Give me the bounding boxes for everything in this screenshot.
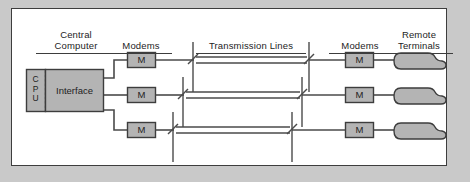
label-central-computer-text: Central Computer [55, 29, 98, 51]
modem-right-3-label: M [346, 124, 373, 135]
network-diagram-figure: Central Computer Modems Transmission Lin… [0, 0, 470, 182]
modem-right-2-label: M [346, 89, 373, 100]
label-remote-terminals: Remote Terminals [385, 18, 453, 65]
remote-terminal-3-shape [394, 123, 446, 139]
label-remote-terminals-rule [385, 53, 453, 54]
break-symbol-right-2 [297, 77, 307, 127]
modem-left-1-label: M [128, 54, 155, 65]
label-transmission-lines-text: Transmission Lines [209, 40, 293, 51]
terminal-lead-lines [374, 60, 395, 130]
cpu-label: C P U [27, 75, 44, 104]
transmission-line-pairs [176, 57, 307, 133]
modem-left-2-label: M [128, 89, 155, 100]
interface-to-modem-connectors [104, 60, 127, 130]
label-modems-left-text: Modems [122, 40, 159, 51]
interface-label: Interface [46, 85, 103, 96]
left-modem-lead-lines [156, 60, 195, 130]
break-symbol-left-2 [178, 77, 188, 127]
break-symbol-right-3 [287, 112, 297, 162]
label-transmission-lines: Transmission Lines [196, 29, 306, 65]
break-symbol-left-3 [168, 112, 178, 162]
label-central-computer: Central Computer [36, 18, 116, 65]
remote-terminal-2-shape [394, 88, 446, 104]
modem-right-1-label: M [346, 54, 373, 65]
label-remote-terminals-text: Remote Terminals [398, 29, 440, 51]
label-central-computer-rule [36, 53, 116, 54]
connector-row-3 [104, 110, 127, 130]
label-modems-right-text: Modems [341, 40, 378, 51]
modem-left-3-label: M [128, 124, 155, 135]
label-transmission-lines-rule [196, 53, 306, 54]
remote-terminal-shapes [394, 53, 446, 139]
